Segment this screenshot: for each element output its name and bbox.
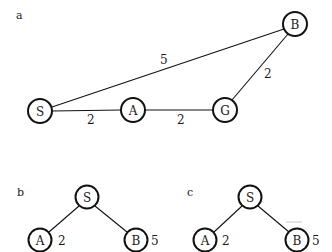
- tree-c-cost-b: 5: [312, 234, 320, 248]
- node-a: A: [121, 98, 145, 122]
- tree-b-cost-b: 5: [151, 234, 159, 248]
- tree-b-edge-s-b: [95, 206, 127, 232]
- panel-a-label: a: [16, 9, 23, 22]
- tree-c-node-b-label: B: [293, 234, 302, 248]
- search-graph-figure: a 2 2 5 2 S A G B b S: [0, 0, 332, 252]
- edge-weight-s-a: 2: [87, 113, 95, 127]
- edge-weight-g-b: 2: [264, 67, 272, 81]
- tree-c-node-a-label: A: [200, 234, 210, 248]
- edge-s-b: [52, 29, 284, 107]
- panel-b-tree: b S A 2 B 5: [17, 186, 159, 252]
- tree-c-node-a: A: [194, 229, 217, 252]
- tree-b-node-a: A: [29, 229, 52, 252]
- node-b: B: [283, 12, 307, 36]
- panel-c-tree: c S A 2 B 5: [187, 186, 320, 252]
- tree-c-edge-s-b: [258, 206, 289, 232]
- panel-b-label: b: [17, 186, 24, 199]
- tree-c-node-s-label: S: [246, 191, 254, 205]
- tree-b-cost-a: 2: [58, 234, 66, 248]
- tree-c-edge-s-a: [214, 206, 242, 232]
- tree-c-node-s: S: [239, 186, 262, 209]
- panel-c-label: c: [187, 186, 193, 199]
- panel-a-graph: a 2 2 5 2 S A G B: [16, 9, 307, 127]
- node-s: S: [28, 99, 52, 123]
- tree-b-edge-s-a: [49, 206, 79, 232]
- edge-weight-a-g: 2: [177, 113, 185, 127]
- node-s-label: S: [36, 105, 44, 119]
- node-b-label: B: [291, 18, 300, 32]
- node-a-label: A: [128, 104, 138, 118]
- tree-b-node-b: B: [125, 229, 148, 252]
- tree-b-node-a-label: A: [35, 234, 45, 248]
- tree-b-node-s: S: [76, 186, 99, 209]
- node-g-label: G: [220, 104, 230, 118]
- edge-weight-s-b: 5: [160, 53, 168, 67]
- edge-s-a: [52, 110, 121, 111]
- node-g: G: [213, 98, 237, 122]
- tree-c-node-b: B: [286, 229, 309, 252]
- tree-b-node-s-label: S: [83, 191, 91, 205]
- tree-c-cost-a: 2: [222, 234, 230, 248]
- tree-b-node-b-label: B: [132, 234, 141, 248]
